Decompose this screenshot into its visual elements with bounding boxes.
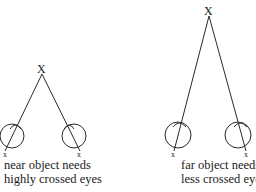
right-sight-line bbox=[42, 74, 80, 151]
left-sight-line bbox=[174, 16, 209, 151]
far-caption-line-2: less crossed eyes bbox=[181, 172, 256, 186]
far-target-label: X bbox=[204, 4, 213, 18]
far-left-eye-label: x bbox=[171, 148, 175, 162]
near-caption-line-1: near object needs bbox=[4, 158, 91, 172]
far-object-diagram bbox=[165, 16, 251, 151]
near-target-label: X bbox=[37, 62, 46, 76]
far-caption-line-1: far object needs bbox=[181, 158, 256, 172]
near-caption-line-2: highly crossed eyes bbox=[4, 172, 102, 186]
near-object-diagram bbox=[0, 74, 86, 151]
right-sight-line bbox=[209, 16, 246, 151]
right-eye-icon bbox=[225, 122, 251, 148]
